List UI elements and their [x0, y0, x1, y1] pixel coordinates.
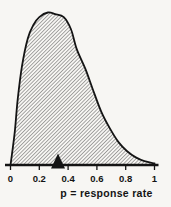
- x-tick-label: 0.4: [61, 173, 75, 184]
- x-axis-ticks: 00.20.40.60.81: [8, 166, 158, 184]
- x-tick-label: 0.8: [119, 173, 132, 184]
- x-tick-label: 0.2: [33, 173, 46, 184]
- x-axis-label: p = response rate: [60, 187, 152, 199]
- x-tick-label: 0.6: [90, 173, 103, 184]
- density-curve-fill: [11, 12, 155, 165]
- x-tick-label: 0: [8, 173, 13, 184]
- chart-canvas: 00.20.40.60.81 p = response rate: [0, 0, 171, 207]
- density-chart: 00.20.40.60.81 p = response rate: [0, 0, 171, 207]
- x-tick-label: 1: [152, 173, 158, 184]
